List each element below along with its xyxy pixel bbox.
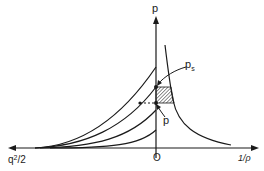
p-axis-text: p xyxy=(152,2,158,14)
one-over-rho-label: 1/ρ xyxy=(238,154,251,163)
curve-3 xyxy=(40,110,156,148)
arrow-right-icon xyxy=(251,145,259,151)
arrow-left-icon xyxy=(8,145,16,151)
q-tail: /2 xyxy=(17,154,25,165)
origin-label: O xyxy=(153,153,161,163)
p-axis-label: p xyxy=(152,3,158,14)
origin-text: O xyxy=(153,152,161,163)
point-p xyxy=(154,101,158,105)
hyperbola-curve xyxy=(165,45,231,145)
curve-family xyxy=(35,67,156,148)
ps-leader-arrow xyxy=(158,67,186,84)
curve-2 xyxy=(35,87,156,148)
q-squared-over-2-label: q2/2 xyxy=(8,154,26,165)
curve-4 xyxy=(50,130,156,148)
one-over-rho-text: 1/ρ xyxy=(238,153,251,163)
point-left xyxy=(138,101,141,104)
diagram-canvas xyxy=(0,0,264,171)
p-label: p xyxy=(163,115,169,126)
ps-label-sub: s xyxy=(191,65,195,72)
p-label-text: p xyxy=(163,114,169,126)
ps-label: ps xyxy=(185,59,195,72)
arrow-up-icon xyxy=(153,16,159,24)
p-arrowhead-icon xyxy=(156,104,161,110)
